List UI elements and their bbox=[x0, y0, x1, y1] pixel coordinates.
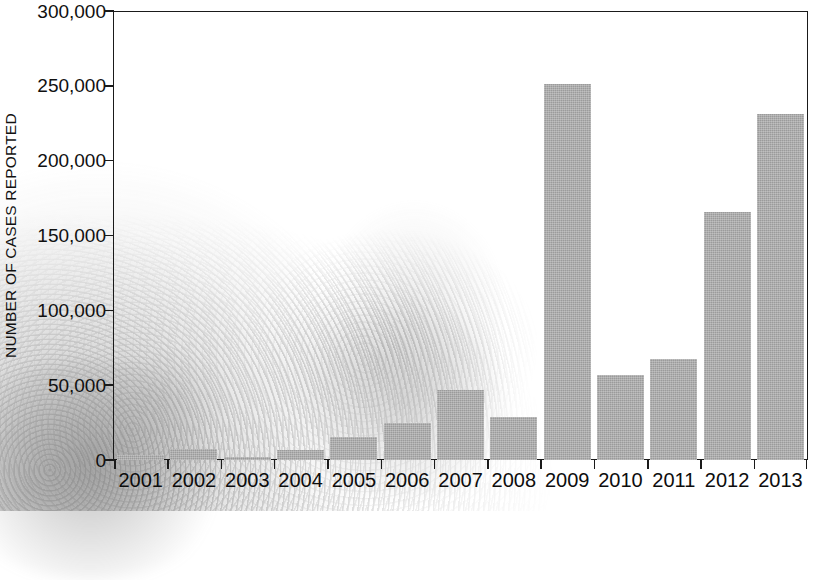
bar-cell bbox=[700, 11, 753, 460]
x-axis-label-2007: 2007 bbox=[438, 469, 483, 491]
y-axis-title: NUMBER OF CASES REPORTED bbox=[2, 118, 20, 358]
x-axis-label-cell: 2005 bbox=[327, 470, 380, 491]
x-axis-tick-mark bbox=[274, 460, 276, 469]
y-axis-tick-mark bbox=[104, 235, 114, 237]
bar-2011 bbox=[650, 359, 697, 460]
x-axis-tick-mark bbox=[221, 460, 223, 469]
x-axis-label-2001: 2001 bbox=[118, 469, 163, 491]
x-axis-tick-mark bbox=[540, 460, 542, 469]
x-axis-label-2002: 2002 bbox=[172, 469, 217, 491]
y-axis-tick-label: 200,000 bbox=[37, 151, 113, 170]
bar-cell bbox=[647, 11, 700, 460]
x-axis-tick-mark bbox=[114, 460, 116, 469]
bar-cell bbox=[167, 11, 220, 460]
x-axis-label-cell: 2008 bbox=[487, 470, 540, 491]
bar-cell bbox=[541, 11, 594, 460]
x-axis-label-cell: 2001 bbox=[114, 470, 167, 491]
x-axis-label-cell: 2007 bbox=[434, 470, 487, 491]
x-axis-label-cell: 2004 bbox=[274, 470, 327, 491]
bar-2012 bbox=[704, 212, 751, 460]
bar-cell bbox=[754, 11, 807, 460]
x-axis-label-2011: 2011 bbox=[652, 469, 695, 491]
bar-cell bbox=[487, 11, 540, 460]
x-axis-label-cell: 2012 bbox=[700, 470, 753, 491]
x-axis-label-2010: 2010 bbox=[598, 469, 643, 491]
bar-cell bbox=[274, 11, 327, 460]
y-axis-tick-mark bbox=[104, 10, 114, 12]
bar-2013 bbox=[757, 114, 804, 460]
x-axis-tick-mark bbox=[434, 460, 436, 469]
x-axis-label-2009: 2009 bbox=[545, 469, 590, 491]
x-axis-ticks bbox=[114, 460, 807, 469]
x-axis-label-2003: 2003 bbox=[225, 469, 270, 491]
y-axis-tick-mark bbox=[104, 459, 114, 461]
x-axis-label-cell: 2002 bbox=[167, 470, 220, 491]
y-axis-tick-mark bbox=[104, 310, 114, 312]
bar-cell bbox=[381, 11, 434, 460]
y-axis-tick-label: 300,000 bbox=[37, 2, 113, 21]
x-axis-tick-mark bbox=[700, 460, 702, 469]
bar-2007 bbox=[437, 390, 484, 460]
x-axis-tick-mark bbox=[487, 460, 489, 469]
x-axis-label-cell: 2010 bbox=[594, 470, 647, 491]
y-axis-tick-mark bbox=[104, 384, 114, 386]
x-axis-tick-mark bbox=[327, 460, 329, 469]
x-axis-label-2013: 2013 bbox=[758, 469, 803, 491]
x-axis-label-cell: 2003 bbox=[221, 470, 274, 491]
x-axis-label-2008: 2008 bbox=[492, 469, 537, 491]
bar-2005 bbox=[330, 437, 377, 460]
bar-cell bbox=[327, 11, 380, 460]
x-axis-label-2005: 2005 bbox=[332, 469, 377, 491]
bar-series bbox=[114, 11, 807, 460]
bar-cell bbox=[221, 11, 274, 460]
y-axis-tick-label: 250,000 bbox=[37, 76, 113, 95]
x-axis-tick-mark bbox=[167, 460, 169, 469]
bar-2002 bbox=[170, 449, 217, 460]
bar-cell bbox=[434, 11, 487, 460]
y-axis-tick-mark bbox=[104, 85, 114, 87]
x-axis-tick-mark bbox=[594, 460, 596, 469]
y-axis-tick-label: 150,000 bbox=[37, 226, 113, 245]
x-axis-label-2012: 2012 bbox=[705, 469, 750, 491]
x-axis-label-cell: 2009 bbox=[541, 470, 594, 491]
bar-2009 bbox=[544, 84, 591, 460]
x-axis-label-cell: 2011 bbox=[647, 470, 700, 491]
x-axis-tick-mark bbox=[754, 460, 756, 469]
x-axis-label-cell: 2006 bbox=[381, 470, 434, 491]
bar-cell bbox=[594, 11, 647, 460]
x-axis-label-2006: 2006 bbox=[385, 469, 430, 491]
x-axis-labels: 2001200220032004200520062007200820092010… bbox=[114, 470, 807, 491]
x-axis-tick-mark bbox=[381, 460, 383, 469]
y-axis-tick-label: 100,000 bbox=[37, 301, 113, 320]
bar-2004 bbox=[277, 450, 324, 460]
bar-2008 bbox=[490, 417, 537, 460]
x-axis-label-2004: 2004 bbox=[278, 469, 323, 491]
bar-cell bbox=[114, 11, 167, 460]
y-axis-tick-mark bbox=[104, 160, 114, 162]
x-axis-tick-mark bbox=[647, 460, 649, 469]
bar-2010 bbox=[597, 375, 644, 460]
x-axis-tick-mark bbox=[806, 460, 808, 469]
x-axis-label-cell: 2013 bbox=[754, 470, 807, 491]
bar-2006 bbox=[384, 423, 431, 460]
